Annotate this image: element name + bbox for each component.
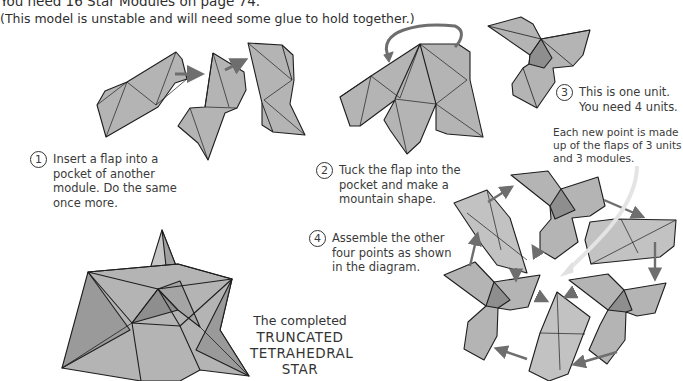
step-4: 4 Assemble the other four points as show… (309, 231, 451, 275)
step-3: 3 This is one unit. You need 4 units. (556, 85, 678, 114)
annotation-note: Each new point is made up of the flaps o… (553, 126, 682, 165)
step-4-line-3: in the diagram. (332, 260, 451, 275)
step-1: 1 Insert a flap into a pocket of another… (30, 152, 177, 210)
step-3-line-2: You need 4 units. (579, 100, 678, 115)
step-1-line-3: module. Do the same (53, 181, 177, 196)
step-number-1: 1 (30, 151, 47, 168)
completed-title-line-1: TRUNCATED (250, 329, 350, 345)
completed-star (62, 230, 249, 381)
annotation-line-1: Each new point is made (553, 126, 682, 139)
annotation-line-2: up of the flaps of 3 units (553, 139, 682, 152)
step1-module-b (178, 53, 246, 160)
step4-assembly (444, 171, 676, 381)
step2-mountain (340, 44, 483, 154)
step-4-line-1: Assemble the other (332, 231, 451, 246)
step-2-line-3: mountain shape. (339, 192, 461, 207)
annotation-line-3: and 3 modules. (553, 152, 682, 165)
step-2: 2 Tuck the flap into the pocket and make… (316, 163, 461, 207)
completed-label: The completed (250, 313, 350, 329)
step-3-line-1: This is one unit. (579, 85, 678, 100)
step1-module-c (248, 43, 305, 135)
step-2-line-2: pocket and make a (339, 178, 461, 193)
step-number-2: 2 (316, 162, 333, 179)
step-1-line-2: pocket of another (53, 167, 177, 182)
step-1-line-1: Insert a flap into a (53, 152, 177, 167)
step-4-line-2: four points as shown (332, 246, 451, 261)
completed-title-line-3: STAR (250, 361, 350, 377)
step-1-line-4: once more. (53, 196, 177, 211)
step-number-4: 4 (309, 230, 326, 247)
step-number-3: 3 (556, 84, 573, 101)
step1-module-a (97, 52, 187, 137)
completed-title-line-2: TETRAHEDRAL (250, 345, 350, 361)
completed-caption: The completed TRUNCATED TETRAHEDRAL STAR (250, 313, 350, 377)
step-2-line-1: Tuck the flap into the (339, 163, 461, 178)
